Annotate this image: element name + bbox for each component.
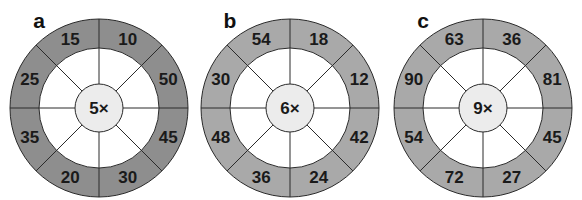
product-value: 36 bbox=[502, 30, 521, 49]
multiplier-text: 6× bbox=[280, 99, 299, 118]
wheel-c: 9×3681452772549063c bbox=[394, 9, 572, 197]
product-value: 50 bbox=[159, 70, 178, 89]
product-value: 54 bbox=[404, 128, 423, 147]
multiplier-text: 9× bbox=[473, 99, 492, 118]
product-value: 36 bbox=[252, 168, 271, 187]
wheel-b: 6×1812422436483054b bbox=[201, 9, 379, 197]
wheel-label: c bbox=[417, 9, 429, 32]
product-value: 42 bbox=[350, 128, 369, 147]
product-value: 72 bbox=[445, 168, 464, 187]
multiplier-text: 5× bbox=[89, 99, 108, 118]
product-value: 54 bbox=[252, 30, 271, 49]
multiplication-wheels-diagram: 5×1050453020352515a6×1812422436483054b9×… bbox=[0, 0, 582, 200]
product-value: 63 bbox=[445, 30, 464, 49]
product-value: 24 bbox=[309, 168, 328, 187]
wheel-label: a bbox=[33, 9, 45, 32]
product-value: 25 bbox=[20, 70, 39, 89]
product-value: 90 bbox=[404, 70, 423, 89]
wheel-label: b bbox=[224, 9, 237, 32]
product-value: 45 bbox=[159, 128, 178, 147]
product-value: 81 bbox=[543, 70, 562, 89]
product-value: 18 bbox=[309, 30, 328, 49]
product-value: 35 bbox=[20, 128, 39, 147]
product-value: 30 bbox=[211, 70, 230, 89]
product-value: 12 bbox=[350, 70, 369, 89]
product-value: 45 bbox=[543, 128, 562, 147]
product-value: 27 bbox=[502, 168, 521, 187]
product-value: 48 bbox=[211, 128, 230, 147]
wheel-a: 5×1050453020352515a bbox=[10, 9, 188, 197]
product-value: 15 bbox=[61, 30, 80, 49]
product-value: 10 bbox=[118, 30, 137, 49]
product-value: 20 bbox=[61, 168, 80, 187]
product-value: 30 bbox=[118, 168, 137, 187]
